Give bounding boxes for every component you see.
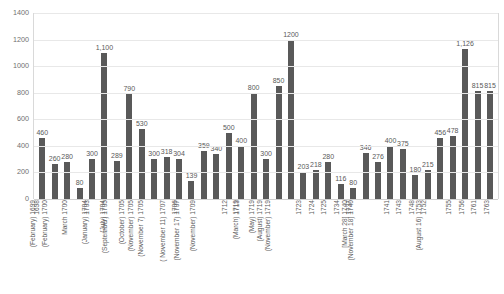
bar-value-label: 276 (372, 153, 384, 160)
bar-slot: 203 (297, 13, 309, 199)
bar-series: 460260280803001,100289790530300318304139… (34, 13, 498, 199)
x-axis: 1698(February) 1699(February) 1700March … (33, 200, 499, 294)
x-axis-slot: (August) 1719 (272, 200, 284, 294)
x-axis-tick-label: ( November 11) 1707 (160, 200, 167, 262)
bar[interactable] (338, 184, 344, 199)
bar[interactable] (164, 157, 170, 199)
bar[interactable] (325, 162, 331, 199)
x-axis-tick-label: (August) 1719 (258, 200, 265, 241)
bar-value-label: 203 (298, 163, 310, 170)
bar-slot: 304 (173, 13, 185, 199)
bar-slot: 215 (422, 13, 434, 199)
bar-slot: 300 (260, 13, 272, 199)
x-axis-tick-label: March 1700 (61, 200, 68, 235)
bar-slot: 276 (372, 13, 384, 199)
x-axis-slot: (November) 1705 (147, 200, 159, 294)
plot-area: 460260280803001,100289790530300318304139… (33, 13, 499, 199)
x-axis-tick-label: (November 17) 1707 (173, 200, 180, 260)
gridline-1200 (34, 40, 498, 41)
bar[interactable] (188, 181, 194, 199)
x-axis-tick-label: (November 18) 1740 (348, 200, 355, 260)
y-axis-tick-200: 200 (17, 169, 29, 176)
x-axis-tick-label: 1723 (296, 200, 303, 215)
bar-slot: 1200 (285, 13, 297, 199)
bar[interactable] (139, 129, 145, 199)
bar-value-label: 300 (148, 150, 160, 157)
x-axis-tick-label: 1763 (483, 200, 490, 215)
bar-slot: 180 (409, 13, 421, 199)
x-axis-tick-label: (September) 1705 (102, 200, 109, 253)
bar[interactable] (462, 49, 468, 199)
bar[interactable] (300, 172, 306, 199)
bar-value-label: 280 (322, 153, 334, 160)
bar[interactable] (363, 153, 369, 199)
bar-value-label: 850 (273, 77, 285, 84)
bar[interactable] (114, 161, 120, 199)
bar[interactable] (276, 86, 282, 199)
bar-slot: 289 (111, 13, 123, 199)
bar-slot: 500 (223, 13, 235, 199)
x-axis-slot: 1763 (484, 200, 496, 294)
bar-slot: 318 (160, 13, 172, 199)
bar[interactable] (89, 159, 95, 199)
bar[interactable] (263, 159, 269, 199)
bar-value-label: 218 (310, 161, 322, 168)
bar-chart: 0200400600800100012001400 46026028080300… (0, 0, 504, 294)
bar-slot: 530 (136, 13, 148, 199)
gridline-400 (34, 146, 498, 147)
bar[interactable] (77, 188, 83, 199)
bar[interactable] (213, 154, 219, 199)
gridline-1000 (34, 66, 498, 67)
bar[interactable] (400, 149, 406, 199)
bar[interactable] (64, 162, 70, 199)
x-axis-tick-label: (February) 1700 (43, 200, 50, 247)
bar-slot: 456 (434, 13, 446, 199)
bar[interactable] (412, 175, 418, 199)
bar-slot: 790 (123, 13, 135, 199)
bar-slot: 400 (384, 13, 396, 199)
bar-slot: 300 (86, 13, 98, 199)
bar-slot: 116 (335, 13, 347, 199)
bar-value-label: 289 (111, 152, 123, 159)
bar-slot: 800 (247, 13, 259, 199)
bar[interactable] (375, 162, 381, 199)
bar-slot: 850 (272, 13, 284, 199)
bar-value-label: 400 (385, 137, 397, 144)
bar-value-label: 300 (260, 150, 272, 157)
x-axis-tick-label: 1755 (446, 200, 453, 215)
y-axis-tick-600: 600 (17, 116, 29, 123)
x-axis-tick-label: 1756 (458, 200, 465, 215)
bar-slot: 375 (397, 13, 409, 199)
bar[interactable] (350, 188, 356, 199)
y-axis-tick-1400: 1400 (13, 9, 29, 16)
bar-slot: 280 (61, 13, 73, 199)
x-axis-tick-label: 1743 (396, 200, 403, 215)
y-axis-tick-1200: 1200 (13, 36, 29, 43)
bar[interactable] (425, 170, 431, 199)
bar[interactable] (151, 159, 157, 199)
bar-value-label: 304 (173, 150, 185, 157)
x-axis-tick-label: 1712 (221, 200, 228, 215)
bar[interactable] (176, 159, 182, 199)
bar[interactable] (201, 151, 207, 199)
bar-value-label: 116 (335, 175, 346, 182)
gridline-800 (34, 93, 498, 94)
bar-slot: 400 (235, 13, 247, 199)
bar[interactable] (313, 170, 319, 199)
bar-slot: 815 (471, 13, 483, 199)
bar-value-label: 790 (123, 85, 135, 92)
bar[interactable] (39, 138, 45, 199)
bar-slot: 346 (359, 13, 371, 199)
bar-slot: 300 (148, 13, 160, 199)
bar-slot: 80 (73, 13, 85, 199)
x-axis-tick-label: 1741 (383, 200, 390, 215)
bar-slot: 460 (36, 13, 48, 199)
x-axis-tick-label: (February) 1699 (30, 200, 37, 247)
bar-value-label: 400 (235, 137, 247, 144)
bar-value-label: 318 (161, 148, 173, 155)
bar[interactable] (437, 138, 443, 199)
bar[interactable] (52, 164, 58, 199)
bar[interactable] (101, 53, 107, 199)
bar[interactable] (226, 133, 232, 199)
x-axis-slot: (November 17) 1707 (197, 200, 209, 294)
